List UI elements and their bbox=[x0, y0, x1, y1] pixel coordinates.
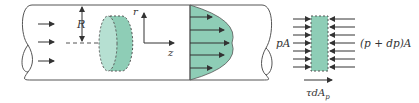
fluid-element bbox=[311, 16, 328, 71]
coordinate-axes: r z bbox=[133, 6, 174, 58]
left-force-label: pA bbox=[276, 37, 291, 49]
pipe-break-left bbox=[22, 5, 32, 80]
radius-label: R bbox=[76, 18, 85, 31]
radius-dimension: R bbox=[76, 6, 85, 42]
shear-force-label: τdAp bbox=[306, 87, 330, 101]
free-body-diagram: pA (p + dp)A τdAp bbox=[276, 16, 412, 101]
pipe-flow-diagram: R r z bbox=[0, 0, 419, 103]
inlet-flow-arrows bbox=[38, 24, 54, 61]
right-pressure-arrows bbox=[330, 19, 355, 67]
pipe-break-right bbox=[262, 5, 272, 80]
velocity-profile bbox=[190, 5, 233, 80]
fluid-cylinder-element bbox=[99, 16, 133, 71]
right-force-label: (p + dp)A bbox=[360, 37, 412, 49]
r-axis-label: r bbox=[133, 6, 139, 17]
left-pressure-arrows bbox=[293, 19, 310, 67]
z-axis-label: z bbox=[167, 47, 174, 58]
